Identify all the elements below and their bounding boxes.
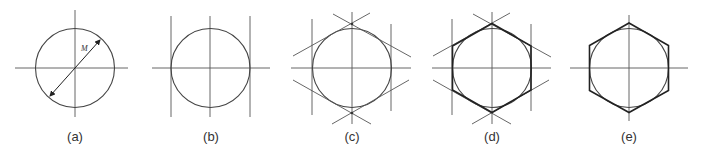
tangent-30-lower-left (293, 80, 371, 124)
vertex-point-top (351, 23, 354, 26)
diameter-arrow-lower (50, 68, 75, 96)
panel-label-a: (a) (67, 129, 83, 144)
panel-e: (e) (570, 15, 688, 144)
panel-label-d: (d) (484, 129, 500, 144)
dimension-label-m: M (80, 44, 89, 53)
panel-a: M (a) (15, 10, 128, 144)
panel-d: (d) (432, 12, 551, 144)
panel-label-b: (b) (203, 129, 219, 144)
panel-label-c: (c) (344, 129, 359, 144)
vertex-point-bottom (351, 112, 354, 115)
tangent-30-upper-left (293, 13, 370, 56)
panel-label-e: (e) (621, 129, 637, 144)
hexagon-construction-figure: M (a) (b) (c) (d) (0, 0, 701, 153)
panel-b: (b) (152, 16, 270, 144)
tangent-30-upper-right (333, 14, 411, 57)
panel-c: (c) (291, 12, 411, 144)
tangent-30-lower-right (332, 80, 409, 124)
